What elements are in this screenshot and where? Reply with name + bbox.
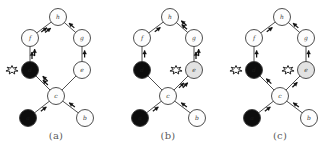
node-label: e [80, 66, 84, 73]
graph-node-d[interactable]: d [246, 62, 263, 79]
node-label: a [26, 114, 30, 121]
graph-node-g[interactable]: g [186, 30, 203, 47]
graph-node-b[interactable]: b [301, 110, 318, 127]
graph-node-g[interactable]: g [74, 30, 91, 47]
graph-node-b[interactable]: b [189, 110, 206, 127]
graph-node-d[interactable]: d [22, 62, 39, 79]
graph-node-b[interactable]: b [77, 110, 94, 127]
node-label: g [304, 34, 308, 42]
burst-icon [170, 66, 182, 74]
panel-caption: (c) [224, 130, 336, 141]
graph-node-e[interactable]: e [74, 62, 91, 79]
node-label: b [307, 114, 311, 121]
node-label: e [192, 66, 196, 73]
graph-node-h[interactable]: h [274, 9, 291, 26]
graph-node-e[interactable]: e [298, 62, 315, 79]
arrow-head [197, 49, 201, 53]
graph-node-h[interactable]: h [50, 9, 67, 26]
node-label: d [28, 66, 32, 73]
panel-b: hfgdecab(b) [112, 0, 224, 160]
graph-diagram: hfgdecab [0, 0, 112, 136]
node-layer: hfgdecab [132, 9, 206, 127]
edge-line [148, 76, 162, 90]
graph-node-c[interactable]: c [48, 88, 65, 105]
node-label: a [138, 114, 142, 121]
edge-line [174, 76, 188, 90]
node-label: a [250, 114, 254, 121]
panel-a: hfgdecab(a) [0, 0, 112, 160]
node-layer: hfgdecab [20, 9, 94, 127]
node-label: h [168, 13, 172, 20]
burst-icon [6, 66, 18, 74]
arrow-head [307, 51, 311, 55]
node-label: g [192, 34, 196, 42]
graph-node-c[interactable]: c [272, 88, 289, 105]
node-label: h [56, 13, 60, 20]
graph-node-f[interactable]: f [134, 30, 151, 47]
panel-caption: (a) [0, 130, 112, 141]
graph-diagram: hfgdecab [112, 0, 224, 136]
node-label: b [83, 114, 87, 121]
burst-layer [170, 66, 182, 74]
graph-node-c[interactable]: c [160, 88, 177, 105]
node-label: e [304, 66, 308, 73]
arrow-head [255, 51, 259, 55]
graph-node-a[interactable]: a [244, 110, 261, 127]
node-label: h [280, 13, 284, 20]
graph-node-d[interactable]: d [134, 62, 151, 79]
node-label: b [195, 114, 199, 121]
burst-icon [230, 66, 242, 74]
panel-caption: (b) [112, 130, 224, 141]
panel-c: hfgdecab(c) [224, 0, 336, 160]
edge-line [260, 76, 274, 90]
burst-icon [282, 66, 294, 74]
arrow-head [83, 51, 87, 55]
figure-container: hfgdecab(a)hfgdecab(b)hfgdecab(c) [0, 0, 336, 160]
node-label: d [140, 66, 144, 73]
graph-node-a[interactable]: a [132, 110, 149, 127]
graph-node-f[interactable]: f [22, 30, 39, 47]
graph-node-f[interactable]: f [246, 30, 263, 47]
edge-line [286, 76, 300, 90]
node-label: d [252, 66, 256, 73]
burst-layer [6, 66, 18, 74]
graph-node-g[interactable]: g [298, 30, 315, 47]
graph-node-a[interactable]: a [20, 110, 37, 127]
edge-line [62, 76, 76, 90]
graph-node-e[interactable]: e [186, 62, 203, 79]
node-layer: hfgdecab [244, 9, 318, 127]
graph-node-h[interactable]: h [162, 9, 179, 26]
arrow-head [33, 49, 37, 53]
graph-diagram: hfgdecab [224, 0, 336, 136]
arrow-head [143, 51, 147, 55]
node-label: g [80, 34, 84, 42]
edge-line [36, 76, 50, 90]
